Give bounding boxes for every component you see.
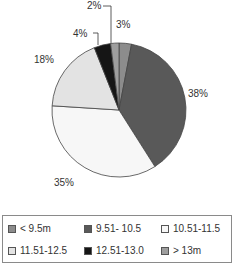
legend-swatch [161,247,169,255]
leader-line-4pct [93,33,98,45]
leader-line-2pct [103,6,111,43]
legend-swatch [84,225,92,233]
legend-swatch [84,247,92,255]
slice-label-gt-13m: 2% [87,0,101,11]
chart-legend: < 9.5m 9.51- 10.5 10.51-11.5 11.51-12.5 … [2,215,232,263]
legend-item-lt-9-5m: < 9.5m [8,223,51,234]
legend-item-gt-13m: > 13m [161,245,201,256]
legend-label: 9.51- 10.5 [96,223,141,234]
slice-label-lt-9-5m: 3% [116,19,130,30]
slice-label-10-51-11-5: 35% [54,177,74,188]
legend-label: < 9.5m [20,223,51,234]
legend-item-10-51-11-5: 10.51-11.5 [161,223,220,234]
pie-slices [52,43,186,177]
legend-item-9-51-10-5: 9.51- 10.5 [84,223,141,234]
legend-label: 10.51-11.5 [173,223,220,234]
legend-item-12-51-13-0: 12.51-13.0 [84,245,144,256]
legend-swatch [161,225,169,233]
legend-swatch [8,225,16,233]
legend-label: 12.51-13.0 [96,245,144,256]
slice-label-9-51-10-5: 38% [188,88,208,99]
slice-label-12-51-13-0: 4% [73,28,87,39]
legend-label: 11.51-12.5 [20,245,67,256]
pie-chart [0,0,236,210]
slice-label-11-51-12-5: 18% [34,54,54,65]
legend-label: > 13m [173,245,201,256]
legend-swatch [8,247,16,255]
legend-item-11-51-12-5: 11.51-12.5 [8,245,67,256]
